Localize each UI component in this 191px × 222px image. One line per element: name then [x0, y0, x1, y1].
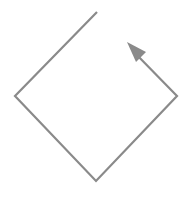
diagram-canvas: [0, 0, 191, 222]
diamond-loop-path: [15, 12, 177, 181]
arrowhead-icon: [127, 42, 146, 62]
